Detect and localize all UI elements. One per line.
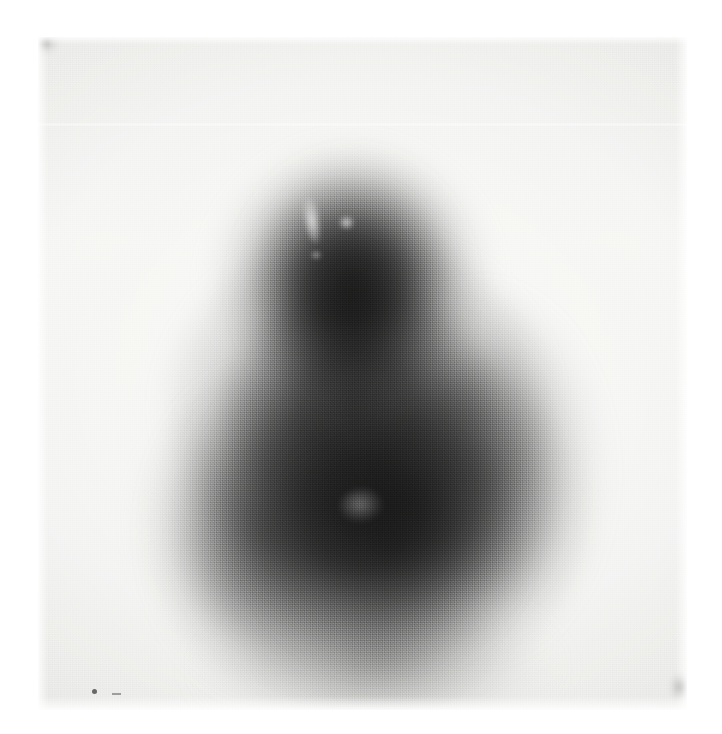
marker-dash-bottom-left [112, 693, 121, 695]
scan-page [0, 0, 722, 734]
scan-plate [38, 37, 687, 710]
marker-dot-bottom-left [92, 689, 97, 694]
uptake-core-upper [243, 157, 463, 417]
horizontal-scan-line-artifact [38, 123, 687, 126]
